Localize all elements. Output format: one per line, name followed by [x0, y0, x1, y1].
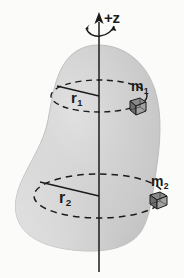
radius-upper-base: r: [71, 89, 77, 106]
rigid-body-blob: [15, 45, 160, 251]
radius-lower-label: r2: [59, 190, 71, 206]
mass-lower-subscript: 2: [164, 181, 169, 191]
mass-lower-base: m: [151, 173, 163, 189]
mass-upper-subscript: 1: [144, 86, 149, 96]
mass-cube-2: [150, 192, 167, 209]
mass-upper-label: m1: [131, 79, 148, 93]
radius-upper-subscript: 1: [77, 98, 82, 108]
mass-cube-1: [130, 98, 146, 115]
mass-upper-base: m: [131, 78, 143, 94]
radius-upper-label: r1: [71, 90, 82, 105]
figure-canvas: [0, 0, 184, 278]
z-axis-label: +z: [104, 10, 120, 25]
radius-lower-base: r: [59, 189, 65, 206]
rotating-body-figure: +z r1 r2 m1 m2: [0, 0, 184, 278]
mass-lower-label: m2: [151, 174, 168, 188]
radius-lower-subscript: 2: [66, 197, 72, 208]
